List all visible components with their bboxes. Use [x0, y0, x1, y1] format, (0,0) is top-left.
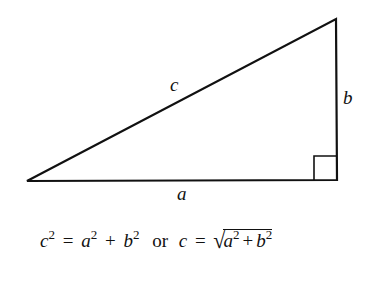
formula-alt-equals: = — [195, 230, 206, 251]
formula-equals: = — [63, 230, 74, 251]
radicand: a2+b2 — [223, 229, 272, 250]
pythagorean-diagram: c b a c2 = a2 + b2 or c = √a2+b2 — [0, 0, 377, 281]
right-triangle — [27, 19, 337, 181]
formula-term1-var: a — [81, 230, 91, 251]
formula-lhs-exponent: 2 — [48, 227, 55, 242]
hypotenuse-label: c — [170, 75, 178, 94]
radicand-term1-exponent: 2 — [233, 227, 240, 242]
radical-sign-icon: √ — [213, 229, 225, 252]
formula-connector: or — [152, 230, 168, 251]
formula-term1-exponent: 2 — [91, 227, 98, 242]
pythagorean-formula: c2 = a2 + b2 or c = √a2+b2 — [40, 229, 340, 252]
square-root: √a2+b2 — [213, 229, 272, 252]
right-angle-marker — [314, 156, 337, 180]
vertical-leg-label: b — [343, 88, 353, 107]
radicand-term2-var: b — [256, 230, 266, 251]
formula-plus: + — [105, 230, 116, 251]
formula-alt-lhs-var: c — [179, 230, 187, 251]
formula-term2-exponent: 2 — [133, 227, 140, 242]
radicand-plus: + — [242, 230, 253, 251]
horizontal-leg-label: a — [177, 184, 187, 203]
formula-term2-var: b — [123, 230, 133, 251]
radicand-term2-exponent: 2 — [266, 227, 273, 242]
